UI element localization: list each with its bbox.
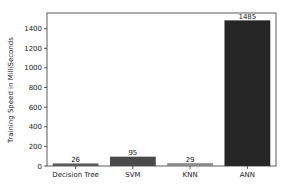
x-tick-label: Decision Tree — [52, 171, 99, 179]
y-tick-label: 200 — [29, 143, 42, 151]
data-label: 29 — [186, 156, 195, 164]
y-tick-label: 800 — [29, 84, 42, 92]
data-label: 95 — [128, 149, 137, 157]
bar-ann — [224, 20, 270, 166]
x-tick-label: ANN — [240, 171, 255, 179]
y-tick-label: 1000 — [24, 64, 42, 72]
y-tick-label: 600 — [29, 104, 42, 112]
y-tick-label: 0 — [38, 163, 42, 171]
bar-chart: 0200400600800100012001400 Decision TreeS… — [0, 0, 289, 187]
y-tick-label: 1200 — [24, 45, 42, 53]
x-tick-label: SVM — [125, 171, 140, 179]
y-tick-label: 1400 — [24, 25, 42, 33]
y-axis-label: Training Speed in MilliSeconds — [7, 37, 15, 144]
y-tick-label: 400 — [29, 123, 42, 131]
x-tick-label: KNN — [183, 171, 198, 179]
data-label: 1485 — [238, 13, 256, 21]
bar-svm — [110, 157, 156, 166]
data-label: 26 — [71, 156, 80, 164]
